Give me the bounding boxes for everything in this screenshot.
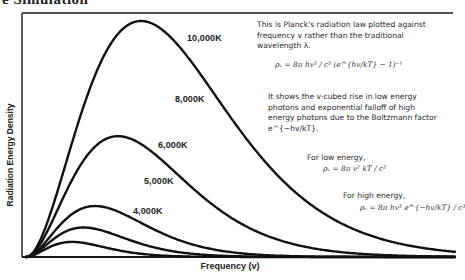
formula-planck: ρᵥ = 8π hv³ / c³ (e^{hv/kT} − 1)⁻¹	[275, 60, 402, 69]
intro-note: This is Planck's radiation law plotted a…	[257, 20, 447, 52]
high-energy-label: For high energy,	[343, 191, 405, 202]
low-energy-label: For low energy,	[307, 153, 366, 164]
formula-low-energy: ρᵥ = 8π v² kT / c³	[323, 164, 386, 173]
curve-label-4000k: 4,000K	[133, 206, 163, 216]
curve-label-5000k: 5,000K	[144, 176, 174, 186]
explanation-note: It shows the v-cubed rise in low energy …	[268, 92, 443, 134]
curve-label-10000k: 10,000K	[187, 33, 222, 43]
curve-6000k	[26, 206, 455, 257]
curve-label-6000k: 6,000K	[158, 140, 188, 150]
planck-curves	[26, 21, 455, 257]
formula-high-energy: ρᵥ = 8π hv³ e^{−hv/kT} / c³	[360, 203, 465, 212]
curve-10000k	[26, 21, 455, 257]
x-axis-label: Frequency (v)	[180, 261, 280, 271]
curve-label-8000k: 8,000K	[175, 94, 205, 104]
y-axis-label: Radiation Energy Density	[5, 95, 15, 215]
